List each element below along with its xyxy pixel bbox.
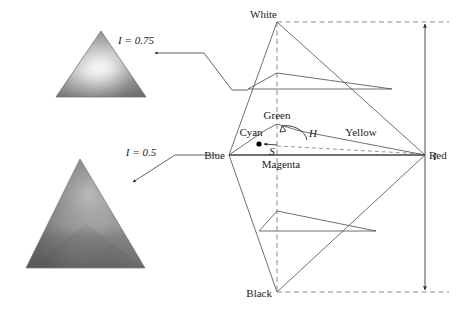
hue-annotation-label: H: [308, 127, 318, 139]
callout-05-label: I = 0.5: [125, 146, 157, 158]
hue-arc: [282, 126, 307, 140]
figure-canvas: White Black Red Blue Green Cyan Yellow M…: [0, 0, 462, 312]
vertex-label-black: Black: [246, 287, 272, 299]
callout-075-leader-line: [155, 53, 248, 90]
sample-color-point: [256, 141, 261, 146]
vertex-label-white: White: [250, 8, 277, 20]
hue-reference-vector: [277, 146, 424, 154]
callout-075-label: I = 0.75: [117, 34, 154, 46]
saturation-annotation-label: S: [269, 145, 275, 157]
vertex-label-cyan: Cyan: [239, 126, 263, 138]
vertex-label-red: Red: [429, 149, 447, 161]
hue-arc-arrowhead: [280, 126, 286, 132]
lower-cross-section-ridges: [259, 211, 376, 231]
vertex-label-yellow: Yellow: [345, 126, 376, 138]
vertex-label-magenta: Magenta: [262, 158, 301, 170]
triangle-intensity-05-group: [26, 159, 145, 268]
color-solid-group: White Black Red Blue Green Cyan Yellow M…: [204, 8, 447, 299]
lower-cone-outline: [229, 155, 425, 292]
callout-leaders-group: I = 0.75 I = 0.5: [117, 34, 248, 182]
vertex-label-green: Green: [264, 109, 291, 121]
upper-cross-section-ridges: [248, 73, 392, 89]
hsi-color-model-figure: White Black Red Blue Green Cyan Yellow M…: [0, 0, 462, 312]
